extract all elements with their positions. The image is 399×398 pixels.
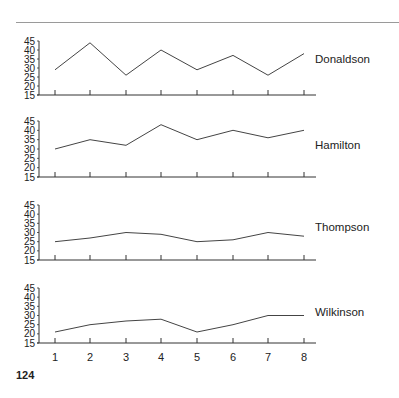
x-tick-label: 5 xyxy=(194,351,200,363)
x-tick-label: 1 xyxy=(52,351,58,363)
series-line-wilkinson xyxy=(55,316,304,333)
x-tick-label: 7 xyxy=(265,351,271,363)
x-tick-label: 3 xyxy=(123,351,129,363)
x-tick-label: 2 xyxy=(87,351,93,363)
x-tick-label: 8 xyxy=(301,351,307,363)
y-tick-label: 15 xyxy=(24,338,36,349)
series-label-thompson: Thompson xyxy=(315,221,369,233)
x-tick-label: 4 xyxy=(158,351,164,363)
series-label-donaldson: Donaldson xyxy=(315,53,370,65)
series-line-hamilton xyxy=(55,125,304,149)
series-label-wilkinson: Wilkinson xyxy=(315,306,364,318)
series-line-donaldson xyxy=(55,43,304,75)
y-tick-label: 15 xyxy=(24,90,36,101)
series-label-hamilton: Hamilton xyxy=(315,139,360,151)
page-number: 124 xyxy=(16,369,34,381)
x-tick-label: 6 xyxy=(230,351,236,363)
y-tick-label: 15 xyxy=(24,255,36,266)
y-tick-label: 15 xyxy=(24,172,36,183)
small-multiples-line-chart: 45403530252015Donaldson45403530252015Ham… xyxy=(0,0,399,398)
series-line-thompson xyxy=(55,233,304,242)
